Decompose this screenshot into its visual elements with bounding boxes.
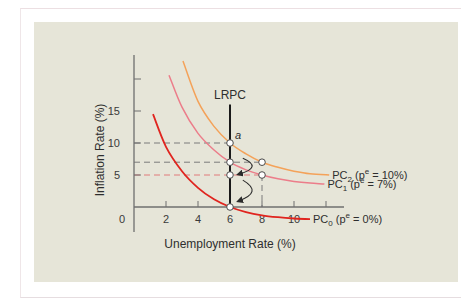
pc0-curve [153, 114, 310, 219]
point-p-6-5 [227, 172, 234, 179]
x-tick-label: 4 [195, 213, 201, 225]
pc0-label: PC0 (pe = 0%) [313, 211, 382, 228]
point-label-a: a [235, 129, 241, 141]
label-post: = 7%) [364, 178, 396, 190]
label-main: PC [327, 178, 342, 190]
point-p-6-0 [227, 204, 234, 211]
label-pre: (p [333, 213, 346, 225]
x-tick-label: 6 [227, 213, 233, 225]
arrow-lower [238, 180, 252, 201]
transition-arrows [238, 158, 252, 201]
curve-labels: PC2 (pe = 10%)PC1 (pe = 7%)PC0 (pe = 0%) [313, 167, 407, 228]
x-axis-title: Unemployment Rate (%) [164, 237, 295, 251]
point-a [227, 140, 234, 147]
x-tick-label: 2 [163, 213, 169, 225]
origin-label: 0 [119, 213, 125, 225]
point-p-8-5 [259, 172, 266, 179]
y-tick-label: 10 [108, 137, 120, 149]
label-pre: (p [347, 178, 360, 190]
label-post: = 0%) [350, 213, 382, 225]
y-axis-title: Inflation Rate (%) [93, 104, 107, 197]
point-p-6-7 [227, 159, 234, 166]
pc1-label: PC1 (pe = 7%) [327, 176, 396, 193]
lrpc-label: LRPC [214, 88, 246, 102]
pc2-curve [183, 61, 329, 175]
label-main: PC [313, 213, 328, 225]
y-tick-label: 5 [114, 169, 120, 181]
y-tick-label: 15 [108, 105, 120, 117]
point-p-8-7 [259, 159, 266, 166]
pc1-curve [169, 75, 324, 184]
lrpc-group: LRPC [214, 88, 246, 207]
